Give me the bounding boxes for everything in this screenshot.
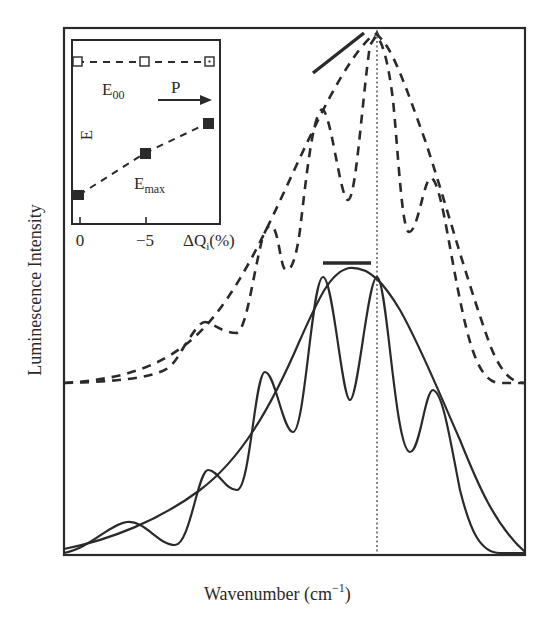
- luminescence-chart: E00 P E Emax 0 −5 ΔQi(%) Luminescence In…: [0, 0, 553, 628]
- inset-emax-marker: [140, 148, 151, 159]
- inset-tick-label-5: −5: [136, 231, 154, 250]
- solid-resolved-curve: [64, 277, 525, 553]
- inset-e00-marker: [140, 57, 149, 66]
- inset-e00-marker-dot: [209, 61, 211, 63]
- y-axis-label: Luminescence Intensity: [25, 204, 45, 375]
- inset-emax-marker: [73, 190, 84, 200]
- inset-emax-marker: [203, 118, 214, 129]
- inset-xlabel: ΔQi(%): [183, 231, 235, 252]
- inset-label-e-axis: E: [77, 130, 96, 140]
- inset-label-p: P: [171, 78, 180, 97]
- inset-plot: E00 P E Emax 0 −5 ΔQi(%): [72, 40, 235, 252]
- solid-envelope-curve: [64, 268, 525, 552]
- x-axis-label: Wavenumber (cm−1): [204, 581, 351, 605]
- inset-e00-marker: [73, 57, 82, 66]
- inset-tick-label-0: 0: [76, 231, 85, 250]
